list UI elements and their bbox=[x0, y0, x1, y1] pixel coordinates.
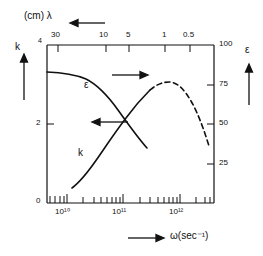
left-tick-label-0: 0 bbox=[36, 197, 40, 205]
right-axis-ticks bbox=[207, 85, 214, 164]
lambda-left-arrow bbox=[70, 20, 105, 27]
left-tick-label-2: 2 bbox=[36, 119, 40, 127]
bottom-axis-ticks bbox=[50, 194, 210, 203]
top-tick-label-30: 30 bbox=[51, 31, 60, 39]
epsilon-curve-label: ε bbox=[84, 80, 88, 90]
top-tick-label-10: 10 bbox=[99, 31, 108, 39]
x-axis-title: ω(sec⁻¹) bbox=[170, 231, 208, 241]
top-tick-label-0-5: 0.5 bbox=[183, 31, 194, 39]
top-axis-ticks bbox=[58, 45, 190, 52]
top-axis-title: (cm) λ bbox=[24, 11, 52, 21]
k-curve-label: k bbox=[78, 148, 83, 158]
k-axis-up-arrow bbox=[21, 54, 28, 100]
k-points-left-arrow bbox=[92, 119, 128, 126]
right-tick-label-25: 25 bbox=[219, 159, 228, 167]
bottom-tick-label-1e12: 10¹² bbox=[169, 208, 183, 216]
bottom-tick-label-1e11: 10¹¹ bbox=[112, 208, 126, 216]
epsilon-points-right-arrow bbox=[112, 72, 148, 79]
omega-right-arrow bbox=[128, 235, 164, 242]
left-tick-label-4: 4 bbox=[38, 37, 42, 44]
k-curve-dashed bbox=[150, 82, 209, 146]
right-tick-label-75: 75 bbox=[219, 80, 228, 88]
top-tick-label-5: 5 bbox=[126, 31, 130, 39]
epsilon-axis-up-arrow bbox=[246, 64, 253, 105]
right-tick-label-100: 100 bbox=[219, 40, 232, 48]
left-axis-symbol: k bbox=[15, 42, 20, 52]
plot-frame bbox=[47, 45, 214, 203]
right-axis-symbol: ε bbox=[245, 45, 249, 55]
right-tick-label-50: 50 bbox=[219, 119, 228, 127]
bottom-tick-label-1e10: 10¹⁰ bbox=[55, 208, 70, 216]
top-tick-label-1: 1 bbox=[162, 31, 166, 39]
figure-container: (cm) λ 30 10 5 1 0.5 k 4 2 0 ε 100 75 50… bbox=[0, 0, 263, 256]
k-curve-solid bbox=[72, 90, 150, 188]
